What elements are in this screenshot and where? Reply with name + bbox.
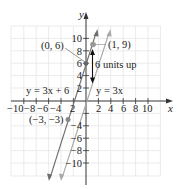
label-point-1-9: (1, 9) (108, 39, 131, 51)
xtick-label: −10 (7, 103, 23, 114)
graph: −10 −8 −6 −4 2 2 4 6 8 10 10 8 6 4 2 −4 … (0, 0, 179, 189)
ytick-label: 4 (77, 70, 83, 81)
ytick-label: 10 (72, 33, 83, 44)
label-point-0-6: (0, 6) (41, 40, 64, 52)
label-line-y-3x: y = 3x (96, 85, 124, 96)
label-line-y-3x-plus-6: y = 3x + 6 (26, 85, 69, 96)
ytick-label: 2 (77, 83, 82, 94)
point-1-9 (90, 42, 96, 48)
xtick-label: 2 (96, 103, 101, 114)
ytick-label: −4 (71, 120, 83, 131)
xtick-label: 6 (121, 103, 126, 114)
ytick-label: −6 (71, 133, 82, 144)
leader-0-6 (65, 48, 85, 62)
point-m3-m3 (66, 117, 71, 122)
xtick-label: 8 (133, 103, 138, 114)
xtick-label: −6 (37, 103, 48, 114)
xtick-label: −8 (24, 103, 35, 114)
x-axis-label: x (167, 102, 173, 114)
xtick-label: 10 (142, 103, 153, 114)
ytick-label: −10 (66, 158, 82, 169)
label-point-m3-m3: (−3, −3) (29, 114, 64, 126)
x-tick-labels: −10 −8 −6 −4 2 2 4 6 8 10 (7, 103, 153, 114)
label-shift: 6 units up (95, 59, 136, 70)
ytick-label: 6 (77, 58, 82, 69)
xtick-label: 2 (70, 103, 75, 114)
xtick-label: −4 (50, 103, 62, 114)
y-axis-label: y (78, 8, 84, 20)
xtick-label: 4 (108, 103, 114, 114)
ytick-label: −8 (71, 145, 82, 156)
ytick-label: 8 (77, 46, 82, 57)
